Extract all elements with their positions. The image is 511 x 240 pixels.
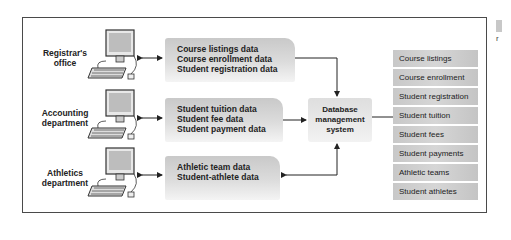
dept-label-registrar: Registrar's office <box>30 48 100 68</box>
registrar-data-box: Course listings data Course enrollment d… <box>165 38 295 82</box>
table-item: Student payments <box>393 145 478 162</box>
table-item: Student registration <box>393 88 478 105</box>
accounting-data-box: Student tuition data Student fee data St… <box>165 98 283 142</box>
table-item: Athletic teams <box>393 164 478 181</box>
table-item: Student tuition <box>393 107 478 124</box>
dept-label-accounting: Accounting department <box>30 108 100 128</box>
table-item: Course listings <box>393 50 478 67</box>
athletics-data-box: Athletic team data Student-athlete data <box>165 156 280 200</box>
side-text: r <box>496 34 499 43</box>
dbms-box: Database management system <box>308 98 372 142</box>
table-item: Student athletes <box>393 183 478 200</box>
dept-label-athletics: Athletics department <box>30 168 100 188</box>
side-marker <box>496 20 502 32</box>
database-tables-list: Course listings Course enrollment Studen… <box>393 50 478 202</box>
table-item: Student fees <box>393 126 478 143</box>
table-item: Course enrollment <box>393 69 478 86</box>
